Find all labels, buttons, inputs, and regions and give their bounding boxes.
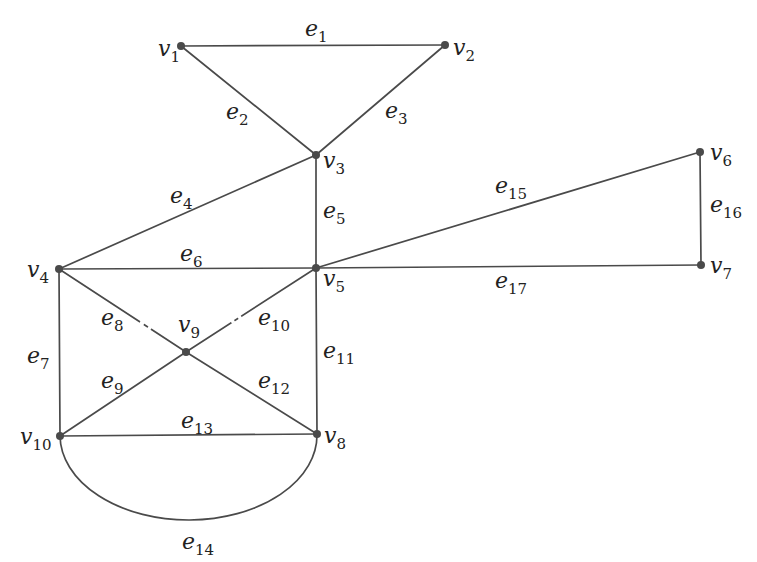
vertex-label-v7-subscript: 7 xyxy=(722,265,732,283)
vertex-label-v8-base: v xyxy=(324,423,337,448)
vertex-label-v10-base: v xyxy=(20,424,33,449)
edge-label-e5-subscript: 5 xyxy=(336,210,346,228)
edge-label-e9-base: e xyxy=(101,368,114,393)
edge-e14 xyxy=(60,434,317,520)
vertex-label-v7: v7 xyxy=(710,253,732,283)
vertex-label-v4-base: v xyxy=(27,257,40,282)
edge-label-e13-base: e xyxy=(181,408,194,433)
vertex-v8 xyxy=(313,430,321,438)
vertex-v7 xyxy=(697,261,705,269)
edge-label-e17: e17 xyxy=(495,268,527,298)
edge-label-e11-subscript: 11 xyxy=(336,350,355,368)
edge-gap xyxy=(231,320,234,322)
edge-label-e8-base: e xyxy=(101,305,114,330)
edge-label-e14-base: e xyxy=(182,529,195,554)
vertex-label-v8-subscript: 8 xyxy=(336,435,346,453)
vertex-label-v10-subscript: 10 xyxy=(32,436,51,454)
vertex-label-v3-subscript: 3 xyxy=(335,160,345,178)
vertex-label-v6: v6 xyxy=(710,140,732,170)
edge-label-e2-subscript: 2 xyxy=(239,111,249,129)
edge-e3 xyxy=(316,45,445,155)
edge-label-e11: e11 xyxy=(323,338,355,368)
vertex-label-v6-base: v xyxy=(710,140,723,165)
edge-e10 xyxy=(186,268,316,352)
edge-label-e3-subscript: 3 xyxy=(398,110,408,128)
edge-label-e17-subscript: 17 xyxy=(508,280,527,298)
edge-label-e10: e10 xyxy=(258,305,290,335)
edge-label-e6-subscript: 6 xyxy=(193,253,203,271)
edge-label-e14: e14 xyxy=(182,529,214,559)
vertex-v9 xyxy=(182,348,190,356)
edge-label-e3-base: e xyxy=(385,98,398,123)
vertex-label-v4-subscript: 4 xyxy=(39,269,49,287)
edge-label-e6-base: e xyxy=(180,241,193,266)
vertex-label-v5-base: v xyxy=(323,266,336,291)
edge-label-e1: e1 xyxy=(305,16,328,46)
edge-gap xyxy=(140,322,144,324)
edge-e11 xyxy=(316,268,317,434)
edge-e6 xyxy=(59,268,316,269)
edge-e7 xyxy=(59,269,60,436)
edge-label-e4: e4 xyxy=(170,183,193,213)
vertex-v3 xyxy=(312,151,320,159)
vertex-v6 xyxy=(696,148,704,156)
vertex-label-v1: v1 xyxy=(158,36,180,66)
vertex-label-v1-base: v xyxy=(158,36,171,61)
graph-diagram: e1e2e3e4e5e6e7e8e9e10e11e12e13e14e15e16e… xyxy=(0,0,757,562)
edge-label-e6: e6 xyxy=(180,241,203,271)
edge-label-e12: e12 xyxy=(258,368,290,398)
vertex-label-v3: v3 xyxy=(323,148,345,178)
edge-label-e16-base: e xyxy=(710,192,723,217)
edge-label-e11-base: e xyxy=(323,338,336,363)
edge-gap xyxy=(148,327,151,329)
edge-e1 xyxy=(181,45,445,46)
edge-label-e9: e9 xyxy=(101,368,124,398)
edge-label-e16-subscript: 16 xyxy=(723,204,742,222)
edge-e15 xyxy=(316,152,700,268)
edge-label-e13: e13 xyxy=(181,408,213,438)
edge-label-e7-base: e xyxy=(27,343,40,368)
vertex-v5 xyxy=(312,264,320,272)
vertex-label-v3-base: v xyxy=(323,148,336,173)
edge-label-e10-subscript: 10 xyxy=(271,317,290,335)
edge-label-e13-subscript: 13 xyxy=(194,420,213,438)
vertex-label-v4: v4 xyxy=(27,257,49,287)
edge-label-e7: e7 xyxy=(27,343,50,373)
edge-label-e8-subscript: 8 xyxy=(114,317,124,335)
edge-e16 xyxy=(700,152,701,265)
edge-e17 xyxy=(316,265,701,268)
vertex-v10 xyxy=(56,432,64,440)
edge-e2 xyxy=(181,46,316,155)
edge-label-e2-base: e xyxy=(226,99,239,124)
vertex-label-v8: v8 xyxy=(324,423,346,453)
edge-label-e15-base: e xyxy=(495,173,508,198)
edge-label-e12-base: e xyxy=(258,368,271,393)
edge-label-e16: e16 xyxy=(710,192,742,222)
edge-label-e2: e2 xyxy=(226,99,249,129)
edge-gap xyxy=(238,316,241,318)
vertex-label-v1-subscript: 1 xyxy=(170,48,180,66)
vertex-label-v9-base: v xyxy=(178,312,191,337)
edge-label-e7-subscript: 7 xyxy=(40,355,50,373)
edge-label-e12-subscript: 12 xyxy=(271,380,290,398)
edges-layer xyxy=(59,45,701,520)
edge-label-e17-base: e xyxy=(495,268,508,293)
labels-layer: e1e2e3e4e5e6e7e8e9e10e11e12e13e14e15e16e… xyxy=(20,16,742,559)
vertex-label-v10: v10 xyxy=(20,424,52,454)
vertex-label-v6-subscript: 6 xyxy=(722,152,732,170)
edge-label-e15-subscript: 15 xyxy=(508,185,527,203)
edge-label-e4-subscript: 4 xyxy=(183,195,193,213)
vertex-v4 xyxy=(55,265,63,273)
edge-label-e10-base: e xyxy=(258,305,271,330)
edge-label-e3: e3 xyxy=(385,98,408,128)
edge-label-e1-base: e xyxy=(305,16,318,41)
edge-e13 xyxy=(60,434,317,436)
vertex-v2 xyxy=(441,41,449,49)
edge-label-e5: e5 xyxy=(323,198,346,228)
edge-e8 xyxy=(59,269,186,352)
edge-label-e14-subscript: 14 xyxy=(195,541,214,559)
vertex-label-v5-subscript: 5 xyxy=(335,278,345,296)
vertex-label-v5: v5 xyxy=(323,266,345,296)
vertex-label-v9-subscript: 9 xyxy=(190,324,200,342)
vertex-label-v2-subscript: 2 xyxy=(465,47,475,65)
